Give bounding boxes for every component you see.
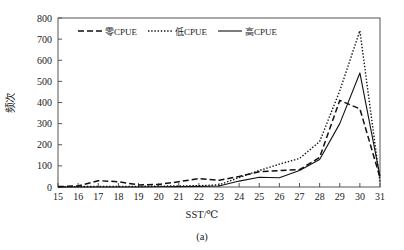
legend-label-2: 低CPUE — [175, 26, 208, 37]
figure-container: 0100200300400500600700800 15161718192021… — [0, 0, 404, 250]
y-tick-label: 0 — [47, 182, 52, 193]
y-tick-label: 800 — [37, 13, 52, 24]
chart-legend: 零CPUE低CPUE高CPUE — [78, 26, 278, 37]
x-tick-label: 17 — [93, 191, 103, 202]
y-tick-label: 400 — [37, 97, 52, 108]
x-tick-label: 28 — [315, 191, 325, 202]
legend-label-3: 高CPUE — [245, 26, 278, 37]
x-tick-label: 22 — [194, 191, 204, 202]
x-tick-label: 15 — [53, 191, 63, 202]
x-tick-label: 23 — [214, 191, 224, 202]
x-tick-label: 27 — [295, 191, 305, 202]
y-tick-label: 200 — [37, 139, 52, 150]
x-tick-label: 29 — [335, 191, 345, 202]
legend-label-1: 零CPUE — [105, 27, 138, 37]
y-tick-label: 600 — [37, 55, 52, 66]
y-axis: 0100200300400500600700800 — [37, 13, 62, 193]
x-tick-label: 18 — [113, 191, 123, 202]
x-tick-label: 19 — [134, 191, 144, 202]
line-chart: 0100200300400500600700800 15161718192021… — [0, 0, 404, 250]
x-tick-label: 21 — [174, 191, 184, 202]
x-tick-label: 30 — [355, 191, 365, 202]
y-axis-title: 频次 — [4, 92, 16, 113]
y-tick-label: 100 — [37, 160, 52, 171]
x-tick-label: 31 — [375, 191, 385, 202]
y-tick-label: 300 — [37, 118, 52, 129]
y-tick-label: 500 — [37, 76, 52, 87]
x-tick-label: 26 — [274, 191, 284, 202]
x-tick-label: 25 — [254, 191, 264, 202]
x-tick-label: 16 — [73, 191, 83, 202]
x-axis-title: SST/℃ — [186, 209, 219, 220]
x-tick-label: 24 — [234, 191, 244, 202]
figure-caption: (a) — [196, 231, 208, 243]
y-tick-label: 700 — [37, 34, 52, 45]
x-tick-label: 20 — [154, 191, 164, 202]
